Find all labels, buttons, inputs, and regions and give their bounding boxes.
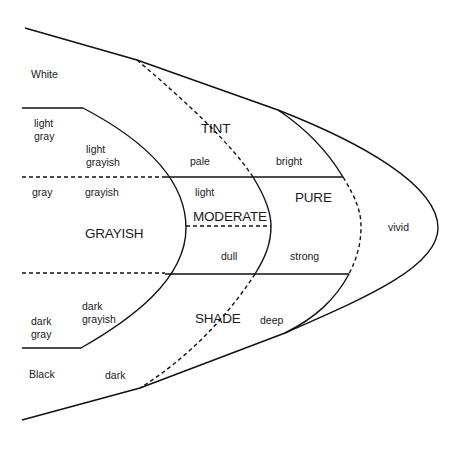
label-gray: gray — [32, 186, 52, 199]
region-shade: SHADE — [195, 311, 241, 326]
label-dull: dull — [221, 250, 237, 263]
pure-boundary-lower — [285, 274, 349, 333]
label-light-gray: light gray — [34, 117, 54, 142]
label-white: White — [31, 68, 58, 81]
region-pure: PURE — [295, 190, 332, 205]
label-dark-gray: dark gray — [31, 315, 51, 340]
pure-boundary-dashed — [343, 177, 361, 274]
moderate-boundary-solid — [253, 177, 271, 274]
region-grayish: GRAYISH — [85, 226, 143, 241]
label-light: light — [195, 186, 214, 199]
label-vivid: vivid — [388, 221, 409, 234]
label-dark: dark — [105, 369, 125, 382]
label-dark-grayish: dark grayish — [82, 300, 116, 325]
label-strong: strong — [290, 250, 319, 263]
label-light-grayish: light grayish — [86, 143, 120, 168]
label-grayish: grayish — [85, 186, 119, 199]
label-pale: pale — [190, 155, 210, 168]
label-bright: bright — [276, 155, 302, 168]
region-tint: TINT — [201, 121, 230, 136]
label-black: Black — [29, 368, 55, 381]
outer-boundary — [22, 28, 438, 420]
label-deep: deep — [260, 314, 283, 327]
region-moderate: MODERATE — [193, 209, 267, 224]
